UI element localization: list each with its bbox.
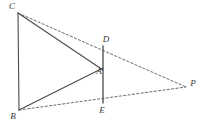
dashed-lines-group [18,13,186,110]
vertex-label-B: B [10,111,16,121]
segment-CA [18,13,103,70]
segment-CP [18,13,186,87]
vertex-label-E: E [98,105,105,115]
geometry-diagram: C B D A E P [0,0,206,128]
solid-lines-group [18,13,103,110]
vertex-label-A: A [95,66,102,76]
segment-CB [18,13,19,110]
vertex-label-D: D [102,34,110,44]
diagram-canvas: C B D A E P [0,0,206,128]
vertex-label-C: C [9,1,16,11]
segment-BA [19,68,103,110]
vertex-label-P: P [189,78,196,88]
